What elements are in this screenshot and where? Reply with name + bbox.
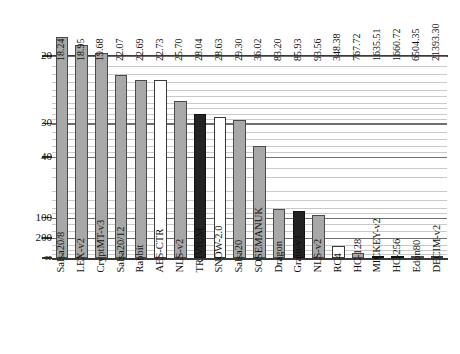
bar-value-label: 6504.35 (411, 29, 421, 62)
bar-rabbit[interactable] (135, 80, 147, 258)
x-tick-label: RC4 (332, 253, 343, 272)
gridline-minor (52, 245, 447, 246)
bar-value-label: 36.02 (253, 39, 263, 62)
x-tick-label: SOSEMANUK (253, 207, 264, 272)
gridline-minor (52, 177, 447, 178)
x-tick-label: LEX-v2 (76, 238, 87, 272)
gridline-minor (52, 114, 447, 115)
bar-value-label: 767.72 (352, 34, 362, 62)
bar-value-label: 29.30 (234, 39, 244, 62)
gridline-minor (52, 90, 447, 91)
gridline-major (52, 218, 447, 219)
gridline-minor (52, 208, 447, 209)
y-tick-label: ∞ (14, 252, 52, 263)
gridline-minor (52, 132, 447, 133)
bar-salsa20-8[interactable] (56, 37, 68, 259)
bar-value-label: 83.20 (273, 39, 283, 62)
gridline-minor (52, 74, 447, 75)
bar-lex-v2[interactable] (75, 45, 87, 258)
x-tick-label: Edon80 (411, 240, 422, 273)
gridline-minor (52, 103, 447, 104)
bar-value-label: 18.95 (76, 39, 86, 62)
bar-value-label: 25.70 (174, 39, 184, 62)
x-tick-label: Grain-v1 (293, 235, 304, 273)
x-tick-label: Rabbit (135, 245, 146, 273)
gridline-minor (52, 82, 447, 83)
bar-chart: 203040100200∞ 18.24Salsa20/818.95LEX-v21… (0, 0, 460, 354)
bar-value-label: 28.04 (194, 39, 204, 62)
bar-nls-v2[interactable] (174, 101, 186, 258)
plot-area (52, 56, 447, 258)
y-tick-label: 100 (14, 212, 52, 223)
gridline-minor (52, 96, 447, 97)
gridline-minor (52, 254, 447, 255)
bar-value-label: 22.73 (155, 39, 165, 62)
x-tick-label: MICKEY-v2 (372, 218, 383, 272)
bar-value-label: 93.56 (313, 39, 323, 62)
x-tick-label: NLS-v2 (174, 239, 185, 273)
bar-value-label: 21393.30 (431, 24, 441, 62)
gridline-minor (52, 108, 447, 109)
bar-value-label: 22.07 (115, 39, 125, 62)
bar-value-label: 348.38 (332, 34, 342, 62)
gridline-minor (52, 168, 447, 169)
x-tick-label: Dragon (273, 241, 284, 273)
x-tick-label: AES-CTR (155, 229, 166, 273)
x-tick-label: NLS-v2 (313, 239, 324, 273)
x-tick-label: Salsa20/8 (56, 232, 67, 273)
gridline-minor (52, 250, 447, 251)
gridline-minor (52, 200, 447, 201)
x-tick-label: Salsa20/12 (115, 226, 126, 272)
x-tick-label: HC-128 (352, 239, 363, 273)
gridline-major (52, 123, 447, 124)
bar-value-label: 28.63 (214, 39, 224, 62)
x-tick-label: CryptMT-v3 (95, 220, 106, 273)
bar-value-label: 85.93 (293, 39, 303, 62)
gridline-major (52, 56, 447, 57)
x-tick-label: Salsa20 (234, 240, 245, 273)
bar-salsa20[interactable] (233, 120, 245, 258)
gridline-major (52, 238, 447, 239)
x-tick-label: TRIVIUM (194, 228, 205, 273)
bar-value-label: 1635.51 (372, 29, 382, 62)
y-tick-label: 40 (14, 151, 52, 162)
gridline-minor (52, 191, 447, 192)
x-tick-label: HC-256 (392, 239, 403, 273)
y-axis: 203040100200∞ (0, 0, 52, 354)
gridline-minor (52, 119, 447, 120)
y-tick-label: 200 (14, 232, 52, 243)
x-tick-label: SNOW-2.0 (214, 226, 225, 273)
bar-value-label: 22.69 (135, 39, 145, 62)
x-tick-label: DECIM-v2 (431, 225, 442, 273)
bar-value-label: 1660.72 (392, 29, 402, 62)
gridline-minor (52, 66, 447, 67)
bar-value-label: 19.68 (95, 39, 105, 62)
x-axis-line (52, 258, 448, 260)
gridline-minor (52, 146, 447, 147)
gridline-minor (52, 213, 447, 214)
y-tick-label: 30 (14, 117, 52, 128)
gridline-major (52, 157, 447, 158)
gridline-minor (52, 231, 447, 232)
gridline-minor (52, 139, 447, 140)
gridline-minor (52, 224, 447, 225)
gridline-minor (52, 152, 447, 153)
bar-value-label: 18.24 (56, 39, 66, 62)
y-tick-label: 20 (14, 50, 52, 61)
